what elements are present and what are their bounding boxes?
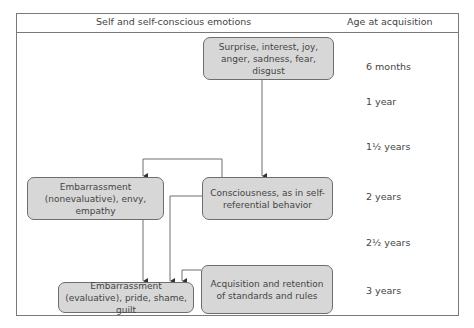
age-label: 3 years xyxy=(366,285,401,296)
age-label: 1½ years xyxy=(366,141,410,152)
node-standards-rules: Acquisition and retention of standards a… xyxy=(201,265,333,314)
age-label: 1 year xyxy=(366,96,396,107)
age-label: 6 months xyxy=(366,61,411,72)
arrow-consciousness-to-nonevaluative xyxy=(143,159,222,177)
node-consciousness: Consciousness, as in self-referential be… xyxy=(202,177,333,220)
arrow-consciousness-to-evaluative xyxy=(170,196,202,281)
age-label: 2½ years xyxy=(366,237,410,248)
node-primary-emotions: Surprise, interest, joy, anger, sadness,… xyxy=(203,37,334,80)
node-nonevaluative-embarrassment: Embarrassment (nonevaluative), envy, emp… xyxy=(27,177,164,220)
node-evaluative-embarrassment: Embarrassment (evaluative), pride, shame… xyxy=(58,282,194,313)
age-label: 2 years xyxy=(366,191,401,202)
